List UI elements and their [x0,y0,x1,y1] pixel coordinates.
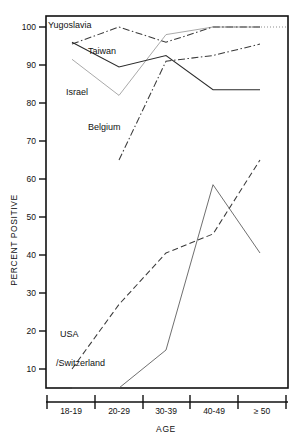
x-tick-label: ≥ 50 [254,406,271,416]
y-tick-label: 70 [27,136,37,146]
y-tick-label: 100 [22,22,36,32]
x-tick-label: 20-29 [108,406,130,416]
x-axis-title: AGE [156,424,176,434]
y-tick-label: 10 [27,364,37,374]
y-axis-title: PERCENT POSITIVE [9,194,19,286]
series-label-belgium: Belgium [88,122,121,132]
x-tick-label: 40-49 [203,406,225,416]
y-tick-label: 20 [27,326,37,336]
percent-positive-by-age-chart: 100 90 80 70 60 50 40 30 20 10 PERCENT P… [0,0,302,447]
y-axis-ticks [39,27,46,369]
y-tick-label: 80 [27,98,37,108]
y-axis-tick-labels: 100 90 80 70 60 50 40 30 20 10 [22,22,36,374]
series-line-usa [72,160,260,369]
series-label-usa: USA [60,329,79,339]
x-axis-tick-labels: 18-19 20-29 30-39 40-49 ≥ 50 [60,406,270,416]
y-tick-label: 40 [27,250,37,260]
x-tick-label: 18-19 [60,406,82,416]
y-tick-label: 60 [27,174,37,184]
y-tick-label: 90 [27,60,37,70]
series-label-israel: Israel [66,87,88,97]
plot-frame [46,16,288,388]
series-label-yugoslavia: Yugoslavia [48,20,92,30]
series-line-yugoslavia [72,27,260,44]
y-tick-label: 30 [27,288,37,298]
series-label-taiwan: Taiwan [88,46,116,56]
series-label-switzerland: /Switzerland [56,358,105,368]
y-tick-label: 50 [27,212,37,222]
x-tick-label: 30-39 [155,406,177,416]
